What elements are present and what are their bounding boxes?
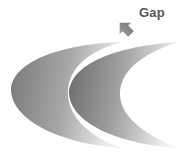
gap-diagram [0,0,188,159]
arrow-down-left-icon [114,17,137,40]
gap-label: Gap [139,5,165,20]
